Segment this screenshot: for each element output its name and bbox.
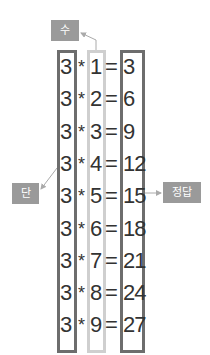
dan-value: 3	[60, 181, 72, 211]
multiply-sign: *	[78, 84, 85, 114]
dan-value: 3	[60, 149, 72, 179]
multiply-sign: *	[78, 181, 85, 211]
multiply-sign: *	[78, 117, 85, 147]
equation-row: 3*4=12	[0, 149, 210, 179]
equals-sign: =	[105, 149, 118, 179]
equation-row: 3*1=3	[0, 52, 210, 82]
equation-row: 3*8=24	[0, 278, 210, 308]
multiply-sign: *	[78, 214, 85, 244]
answer-value: 9	[123, 117, 134, 147]
answer-value: 12	[123, 149, 145, 179]
su-value: 1	[90, 52, 102, 82]
multiply-sign: *	[78, 278, 85, 308]
dan-value: 3	[60, 117, 72, 147]
equation-row: 3*2=6	[0, 84, 210, 114]
equals-sign: =	[105, 310, 118, 340]
answer-value: 24	[123, 278, 145, 308]
su-value: 2	[90, 84, 102, 114]
su-arrow	[81, 33, 96, 50]
answer-value: 18	[123, 214, 145, 244]
multiply-sign: *	[78, 246, 85, 276]
su-value: 3	[90, 117, 102, 147]
dan-value: 3	[60, 214, 72, 244]
answer-value: 3	[123, 52, 134, 82]
multiply-sign: *	[78, 52, 85, 82]
equals-sign: =	[105, 181, 118, 211]
su-value: 8	[90, 278, 102, 308]
equals-sign: =	[105, 117, 118, 147]
answer-value: 6	[123, 84, 134, 114]
dan-value: 3	[60, 278, 72, 308]
equals-sign: =	[105, 278, 118, 308]
answer-value: 21	[123, 246, 145, 276]
equals-sign: =	[105, 52, 118, 82]
dan-value: 3	[60, 52, 72, 82]
equals-sign: =	[105, 246, 118, 276]
equation-row: 3*6=18	[0, 214, 210, 244]
answer-value: 27	[123, 310, 145, 340]
su-value: 9	[90, 310, 102, 340]
multiply-sign: *	[78, 149, 85, 179]
answer-value: 15	[123, 181, 145, 211]
equals-sign: =	[105, 214, 118, 244]
equation-row: 3*3=9	[0, 117, 210, 147]
dan-value: 3	[60, 84, 72, 114]
dan-value: 3	[60, 310, 72, 340]
su-value: 7	[90, 246, 102, 276]
equation-row: 3*7=21	[0, 246, 210, 276]
multiply-sign: *	[78, 310, 85, 340]
su-label: 수	[51, 20, 79, 41]
equation-row: 3*9=27	[0, 310, 210, 340]
su-value: 4	[90, 149, 102, 179]
equation-row: 3*5=15	[0, 181, 210, 211]
su-value: 6	[90, 214, 102, 244]
su-value: 5	[90, 181, 102, 211]
dan-value: 3	[60, 246, 72, 276]
equals-sign: =	[105, 84, 118, 114]
